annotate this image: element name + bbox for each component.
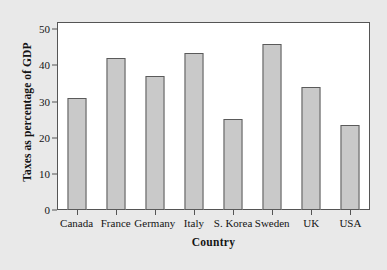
x-tick-mark [350,210,351,215]
bar-chart-figure: Taxes as percentage of GDP 01020304050 C… [0,0,387,270]
bar-slot [135,22,174,210]
y-axis-tick-group: 01020304050 [0,0,50,270]
x-tick-mark [194,210,195,215]
bar-slot [331,22,370,210]
bar-s-korea [224,119,243,210]
x-tick-mark [311,210,312,215]
x-tick-mark [233,210,234,215]
x-tick-mark [272,210,273,215]
x-tick-label: France [101,217,131,229]
x-tick-label: USA [339,217,361,229]
bar-france [106,58,125,210]
bars-layer [57,22,370,210]
bar-canada [67,98,86,210]
y-tick-label: 0 [2,205,50,216]
bar-slot [57,22,96,210]
x-tick-label: UK [303,217,319,229]
bar-slot [214,22,253,210]
x-tick-label: Italy [184,217,204,229]
y-tick-label: 10 [2,168,50,179]
bar-italy [184,53,203,210]
y-tick-label: 20 [2,132,50,143]
bar-uk [302,87,321,210]
x-tick-label: Canada [60,217,93,229]
x-axis-tick-group [57,210,370,216]
x-tick-mark [77,210,78,215]
x-tick-label: Sweden [255,217,290,229]
bar-slot [174,22,213,210]
y-tick-label: 30 [2,96,50,107]
x-tick-mark [116,210,117,215]
bar-usa [341,125,360,210]
y-tick-label: 40 [2,60,50,71]
y-tick-label: 50 [2,24,50,35]
bar-slot [292,22,331,210]
bar-slot [96,22,135,210]
bar-germany [145,76,164,210]
x-tick-mark [155,210,156,215]
x-axis-title: Country [57,236,370,248]
bar-sweden [263,44,282,210]
x-tick-label: S. Korea [214,217,253,229]
x-axis-label-group: CanadaFranceGermanyItalyS. KoreaSwedenUK… [57,217,370,233]
bar-slot [253,22,292,210]
x-tick-label: Germany [134,217,175,229]
